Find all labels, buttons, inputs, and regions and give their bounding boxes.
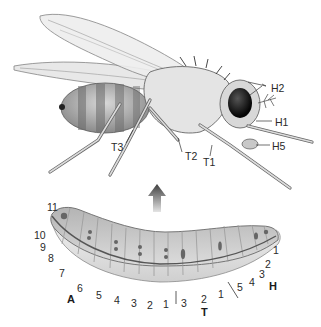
abd-seg-4: 4 xyxy=(114,295,120,306)
thx-seg-3: 3 xyxy=(181,298,187,309)
region-label-abdomen: A xyxy=(67,294,75,305)
head-seg-5: 5 xyxy=(237,282,243,293)
head-seg-4: 4 xyxy=(249,277,255,288)
abd-seg-10: 10 xyxy=(34,230,46,241)
arista xyxy=(258,94,276,108)
label-t2: T2 xyxy=(185,151,197,162)
fly-larva-illustration xyxy=(0,0,321,327)
diagram-stage: H2 H1 H5 T3 T2 T1 11 10 9 8 7 6 5 4 3 2 … xyxy=(0,0,321,327)
thx-seg-2: 2 xyxy=(201,294,207,305)
larva xyxy=(51,207,280,304)
head-seg-3: 3 xyxy=(259,269,265,280)
label-h2: H2 xyxy=(271,83,284,94)
abd-seg-9: 9 xyxy=(40,242,46,253)
abd-seg-3: 3 xyxy=(131,298,137,309)
abd-seg-8: 8 xyxy=(48,253,54,264)
proboscis xyxy=(242,139,258,149)
label-h1: H1 xyxy=(275,117,288,128)
label-t3: T3 xyxy=(111,142,123,153)
compound-eye xyxy=(228,88,252,118)
thx-seg-1: 1 xyxy=(218,289,224,300)
abd-seg-5: 5 xyxy=(96,290,102,301)
region-label-thorax: T xyxy=(201,307,208,318)
region-label-head: H xyxy=(269,281,277,292)
abd-seg-1: 1 xyxy=(163,299,169,310)
head-seg-1: 1 xyxy=(273,245,279,256)
fly xyxy=(14,14,312,188)
thorax xyxy=(144,67,230,133)
head-seg-2: 2 xyxy=(265,259,271,270)
abd-seg-7: 7 xyxy=(59,268,65,279)
abd-seg-6: 6 xyxy=(77,283,83,294)
label-t1: T1 xyxy=(203,157,215,168)
abd-seg-11: 11 xyxy=(47,202,58,213)
abd-seg-2: 2 xyxy=(147,300,153,311)
up-arrow xyxy=(148,184,166,212)
label-h5: H5 xyxy=(272,141,285,152)
